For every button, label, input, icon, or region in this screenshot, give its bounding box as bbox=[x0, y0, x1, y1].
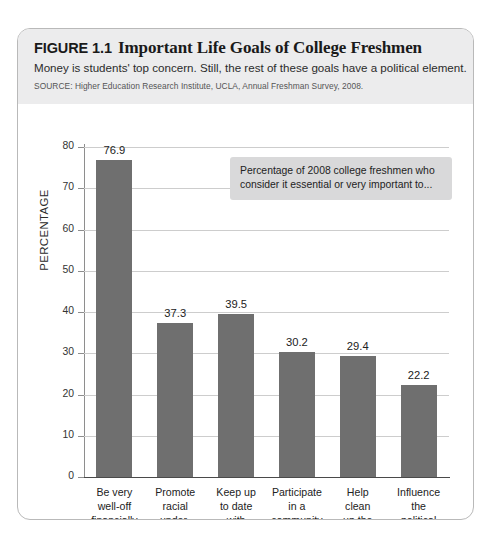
gridline bbox=[84, 436, 449, 437]
x-axis-category-label: Be very well-off financially bbox=[81, 486, 147, 520]
bar-value-label: 22.2 bbox=[389, 369, 449, 381]
y-axis-tick-label: 40 bbox=[26, 305, 74, 316]
callout-annotation: Percentage of 2008 college freshmen who … bbox=[230, 157, 452, 200]
bar-value-label: 30.2 bbox=[267, 336, 327, 348]
bar-value-label: 29.4 bbox=[328, 340, 388, 352]
gridline bbox=[84, 271, 449, 272]
bar bbox=[401, 385, 437, 477]
gridline bbox=[84, 395, 449, 396]
x-axis-category-label: Influence the political structure bbox=[386, 486, 452, 520]
y-axis-tick-label: 80 bbox=[26, 140, 74, 151]
y-axis-tick-label: 70 bbox=[26, 181, 74, 192]
x-axis-category-label: Promote racial under- standing bbox=[142, 486, 208, 520]
bar bbox=[218, 314, 254, 477]
figure-number: FIGURE 1.1 bbox=[34, 40, 112, 56]
figure-source: SOURCE: Higher Education Research Instit… bbox=[34, 81, 457, 91]
figure-card: FIGURE 1.1Important Life Goals of Colleg… bbox=[17, 28, 474, 520]
y-axis-tick bbox=[78, 477, 84, 478]
bar-value-label: 37.3 bbox=[145, 307, 205, 319]
bar bbox=[279, 352, 315, 477]
figure-title-line: FIGURE 1.1Important Life Goals of Colleg… bbox=[34, 38, 457, 58]
bar-value-label: 39.5 bbox=[206, 298, 266, 310]
bar bbox=[157, 323, 193, 477]
figure-header: FIGURE 1.1Important Life Goals of Colleg… bbox=[18, 29, 473, 104]
y-axis-tick-label: 20 bbox=[26, 388, 74, 399]
figure-subtitle: Money is students' top concern. Still, t… bbox=[34, 61, 457, 75]
x-axis-line bbox=[84, 477, 450, 478]
bar-chart: PERCENTAGE 01020304050607080 76.937.339.… bbox=[18, 104, 474, 520]
page-title: Important Life Goals of College Freshmen bbox=[118, 38, 422, 57]
gridline bbox=[84, 353, 449, 354]
y-axis-tick-label: 50 bbox=[26, 264, 74, 275]
bar-value-label: 76.9 bbox=[84, 144, 144, 156]
bar bbox=[96, 160, 132, 477]
y-axis-tick-label: 30 bbox=[26, 346, 74, 357]
y-axis-tick-label: 0 bbox=[26, 470, 74, 481]
x-axis-category-label: Help clean up the environment bbox=[325, 486, 391, 520]
y-axis-tick-label: 10 bbox=[26, 429, 74, 440]
x-axis-category-label: Keep up to date with politics bbox=[203, 486, 269, 520]
bar bbox=[340, 356, 376, 477]
gridline bbox=[84, 230, 449, 231]
gridline bbox=[84, 312, 449, 313]
x-axis-category-label: Participate in a community program bbox=[264, 486, 330, 520]
y-axis-tick-label: 60 bbox=[26, 223, 74, 234]
